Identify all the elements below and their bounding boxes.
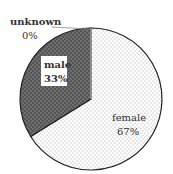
label-female-name: female — [112, 112, 146, 123]
label-unknown-pct: 0% — [22, 30, 38, 41]
pie-chart: unknown 0% male 33% female 67% — [0, 0, 173, 174]
label-male-name: male — [44, 59, 71, 70]
label-male-pct: 33% — [44, 73, 68, 84]
label-female-pct: 67% — [117, 126, 139, 137]
label-unknown-name: unknown — [10, 16, 62, 27]
